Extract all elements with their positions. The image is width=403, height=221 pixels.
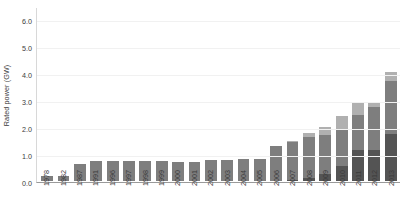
bar-slot (104, 8, 120, 181)
y-axis-title: Rated power (GW) (0, 0, 14, 190)
x-axis-tick-label: 1997 (124, 170, 133, 186)
bar-slot (268, 8, 284, 181)
x-slot: 1991 (87, 185, 103, 221)
x-slot: 2009 (317, 185, 333, 221)
y-axis-tick-label: 6.0 (22, 17, 32, 26)
x-axis-tick-label: 2005 (255, 170, 264, 186)
y-axis-title-text: Rated power (GW) (3, 64, 12, 126)
x-slot: 2012 (366, 185, 382, 221)
gridline (37, 129, 400, 130)
x-axis-tick-label: 2010 (337, 170, 346, 186)
y-axis-tick-labels: 0.01.02.03.04.05.06.0 (14, 0, 34, 190)
x-slot: 2011 (350, 185, 366, 221)
bar-slot (333, 8, 349, 181)
bar-slot (137, 8, 153, 181)
bar-slot (186, 8, 202, 181)
bar-slot (350, 8, 366, 181)
x-slot: 2001 (186, 185, 202, 221)
bar-slot (170, 8, 186, 181)
x-axis-tick-label: 2008 (304, 170, 313, 186)
x-axis-tick-label: 2007 (288, 170, 297, 186)
x-slot: 2006 (268, 185, 284, 221)
bar[interactable] (352, 103, 364, 181)
bar-slot (317, 8, 333, 181)
gridline (37, 21, 400, 22)
gridline (37, 102, 400, 103)
bar-segment-middle-segment (385, 81, 397, 134)
x-axis-tick-label: 2000 (173, 170, 182, 186)
x-axis-tick-label: 1996 (107, 170, 116, 186)
x-axis-tick-labels: 1978198219871991199619971998199920002001… (37, 185, 400, 221)
x-axis-tick-label: 1982 (58, 170, 67, 186)
x-slot: 2004 (235, 185, 251, 221)
bar-slot (203, 8, 219, 181)
bar-slot (366, 8, 382, 181)
x-axis-tick-label: 2009 (321, 170, 330, 186)
bar-segment-top-segment (336, 116, 348, 129)
x-slot: 2013 (383, 185, 399, 221)
bar-slot (121, 8, 137, 181)
bar-slot (235, 8, 251, 181)
gridline (37, 156, 400, 157)
x-slot: 2008 (301, 185, 317, 221)
plot-area (36, 8, 400, 183)
x-axis-tick-label: 2006 (271, 170, 280, 186)
y-axis-tick-label: 4.0 (22, 71, 32, 80)
x-axis-tick-label: 1991 (91, 170, 100, 186)
x-slot: 1996 (104, 185, 120, 221)
gridline (37, 48, 400, 49)
y-axis-tick-label: 0.0 (22, 179, 32, 188)
x-slot: 1987 (71, 185, 87, 221)
bar-slot (252, 8, 268, 181)
x-axis-tick-label: 2001 (189, 170, 198, 186)
y-axis-tick-label: 1.0 (22, 152, 32, 161)
x-slot: 2007 (284, 185, 300, 221)
bar-slot (72, 8, 88, 181)
bar-segment-middle-segment (336, 130, 348, 166)
x-axis-tick-label: 2013 (386, 170, 395, 186)
y-axis-tick-label: 2.0 (22, 125, 32, 134)
x-slot: 1997 (120, 185, 136, 221)
bar-slot (301, 8, 317, 181)
y-axis-tick-label: 3.0 (22, 98, 32, 107)
x-slot: 2002 (202, 185, 218, 221)
x-axis-tick-label: 2011 (354, 171, 363, 186)
x-slot: 1999 (153, 185, 169, 221)
bar-slot (383, 8, 399, 181)
bar-segment-middle-segment (319, 135, 331, 174)
x-axis-tick-label: 1999 (157, 170, 166, 186)
x-axis-tick-label: 1987 (75, 170, 84, 186)
x-slot: 1998 (136, 185, 152, 221)
x-axis-tick-label: 2004 (239, 170, 248, 186)
x-slot: 2000 (169, 185, 185, 221)
chart-figure: Rated power (GW) 0.01.02.03.04.05.06.0 1… (0, 0, 403, 221)
x-axis-tick-label: 2012 (370, 170, 379, 186)
bar-slot (39, 8, 55, 181)
y-axis-tick-label: 5.0 (22, 44, 32, 53)
bar[interactable] (385, 72, 397, 181)
x-slot: 2005 (251, 185, 267, 221)
bar-slot (154, 8, 170, 181)
x-axis-tick-label: 2003 (222, 170, 231, 186)
bar-slot (88, 8, 104, 181)
bar-segment-top-segment (385, 72, 397, 81)
x-axis-tick-label: 2002 (206, 170, 215, 186)
bar-segment-top-segment (352, 103, 364, 115)
x-slot: 1982 (54, 185, 70, 221)
bar-group (38, 8, 400, 181)
gridline (37, 75, 400, 76)
x-axis-tick-label: 1978 (42, 170, 51, 186)
x-axis-tick-label: 1998 (140, 170, 149, 186)
bar-slot (284, 8, 300, 181)
bar-slot (55, 8, 71, 181)
bar-slot (219, 8, 235, 181)
x-slot: 2003 (218, 185, 234, 221)
bar-segment-middle-segment (352, 115, 364, 150)
x-slot: 1978 (38, 185, 54, 221)
x-slot: 2010 (333, 185, 349, 221)
